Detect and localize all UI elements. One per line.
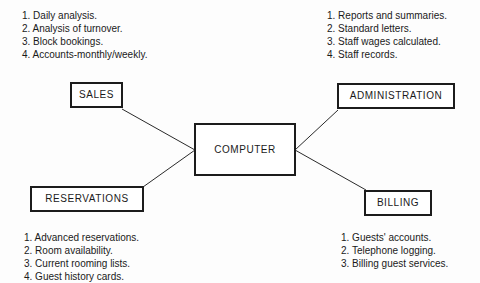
note-line: 4. Guest history cards. [24, 270, 139, 283]
note-line: 1. Reports and summaries. [327, 9, 447, 22]
node-reservations-label: RESERVATIONS [45, 194, 128, 204]
note-line: 1. Advanced reservations. [24, 231, 139, 244]
connector-reservations-computer [143, 150, 195, 187]
node-reservations[interactable]: RESERVATIONS [30, 186, 144, 212]
note-line: 2. Standard letters. [327, 22, 447, 35]
node-administration[interactable]: ADMINISTRATION [337, 83, 455, 109]
node-sales-label: SALES [79, 90, 114, 100]
note-list-reservations: 1. Advanced reservations. 2. Room availa… [24, 231, 139, 283]
note-line: 4. Staff records. [327, 48, 447, 61]
note-line: 3. Current rooming lists. [24, 257, 139, 270]
node-billing[interactable]: BILLING [364, 190, 432, 216]
note-line: 1. Guests' accounts. [341, 231, 448, 244]
note-line: 3. Staff wages calculated. [327, 35, 447, 48]
note-list-billing: 1. Guests' accounts. 2. Telephone loggin… [341, 231, 448, 270]
connector-sales-computer [122, 109, 195, 150]
note-line: 4. Accounts-monthly/weekly. [22, 48, 147, 61]
note-line: 1. Daily analysis. [22, 9, 147, 22]
note-list-sales: 1. Daily analysis. 2. Analysis of turnov… [22, 9, 147, 61]
node-sales[interactable]: SALES [70, 82, 123, 108]
note-line: 3. Block bookings. [22, 35, 147, 48]
connector-administration-computer [295, 110, 338, 150]
node-billing-label: BILLING [377, 198, 419, 208]
note-line: 3. Billing guest services. [341, 257, 448, 270]
note-line: 2. Room availability. [24, 244, 139, 257]
node-computer[interactable]: COMPUTER [194, 123, 296, 176]
diagram-canvas: COMPUTER SALES ADMINISTRATION RESERVATIO… [0, 0, 480, 283]
node-computer-label: COMPUTER [214, 145, 276, 155]
note-line: 2. Analysis of turnover. [22, 22, 147, 35]
node-administration-label: ADMINISTRATION [350, 91, 443, 101]
note-line: 2. Telephone logging. [341, 244, 448, 257]
note-list-administration: 1. Reports and summaries. 2. Standard le… [327, 9, 447, 61]
connector-billing-computer [295, 150, 366, 190]
